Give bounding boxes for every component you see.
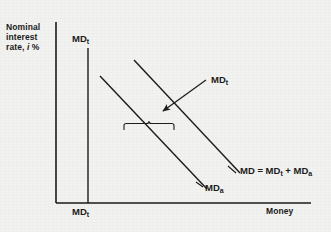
label-md-t-axis-sub: t — [87, 211, 89, 218]
y-axis-title-line3: rate, i % — [6, 42, 54, 52]
md-t-gap-arrow — [163, 80, 206, 111]
equation-equals: = — [255, 165, 266, 176]
label-md-t-vertical: MDt — [72, 33, 89, 44]
label-md-t-axis: MDt — [72, 206, 89, 217]
x-axis-title: Money — [266, 206, 293, 216]
label-md-t-axis-text: MD — [72, 206, 87, 217]
y-axis-title-line2: interest — [6, 32, 54, 42]
curve-md-a — [100, 76, 207, 189]
y-axis-title: Nominal interest rate, i % — [6, 22, 54, 52]
y-axis-title-line1: Nominal — [6, 22, 54, 32]
equation-term2: MD — [294, 165, 309, 176]
label-md-a-sub: a — [220, 187, 224, 194]
label-md-t-vertical-sub: t — [87, 38, 89, 45]
label-md-total-equation: MD = MDt + MDa — [240, 165, 312, 176]
figure-canvas: Nominal interest rate, i % MDt MDt MDt M… — [0, 0, 331, 232]
label-md-t-gap-text: MD — [211, 74, 226, 85]
label-md-t-gap-sub: t — [226, 79, 228, 86]
label-md-a: MDa — [205, 182, 224, 193]
y-axis-title-line3-suffix: % — [29, 42, 39, 52]
equation-term1: MD — [266, 165, 281, 176]
label-md-t-vertical-text: MD — [72, 33, 87, 44]
equation-term1-sub: t — [280, 170, 282, 177]
equation-plus: + — [283, 165, 294, 176]
y-axis-title-line3-prefix: rate, — [6, 42, 27, 52]
equation-term2-sub: a — [308, 170, 312, 177]
label-md-t-gap: MDt — [211, 74, 228, 85]
equation-lhs: MD — [240, 165, 255, 176]
label-md-a-text: MD — [205, 182, 220, 193]
